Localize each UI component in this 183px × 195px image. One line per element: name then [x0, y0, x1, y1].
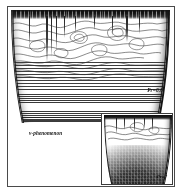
main-half-disc-domain [11, 10, 170, 123]
inset-contour-panel: Pr=7 [101, 113, 173, 185]
figure-root: Pr=0.6 v-phenomenon [0, 0, 183, 195]
inset-panel-pr-label: Pr=7 [157, 174, 167, 179]
main-panel-pr-label: Pr=0.6 [147, 87, 163, 93]
v-phenomenon-annotation: v-phenomenon [29, 130, 62, 136]
main-contour-panel: Pr=0.6 [8, 7, 174, 123]
